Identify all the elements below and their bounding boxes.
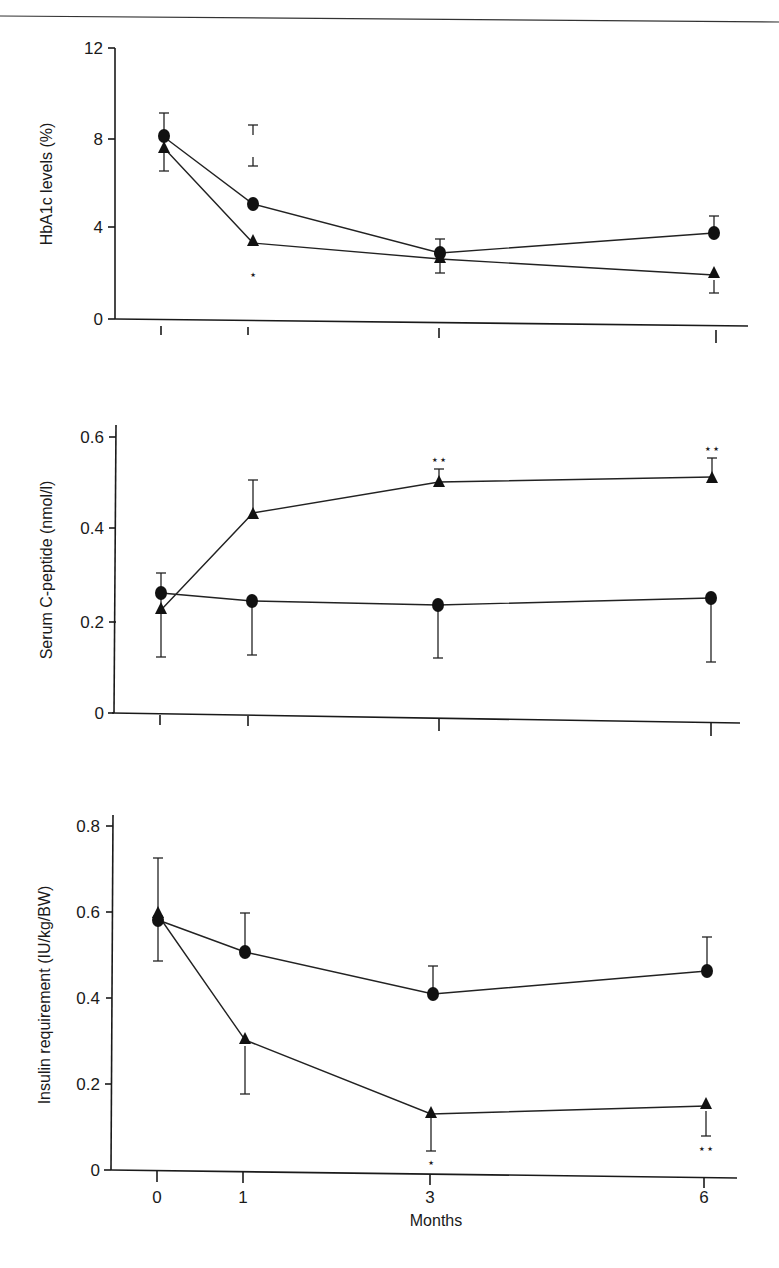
x-axis-title: Months <box>410 1212 462 1229</box>
series-triangle-markers <box>158 141 720 278</box>
top-rule <box>0 16 779 22</box>
x-tick-label: 6 <box>699 1188 708 1207</box>
panel-hba1c: 12 8 4 0 HbA1c levels (%) ⋆ <box>38 39 748 343</box>
x-tick-label: 3 <box>425 1188 434 1207</box>
y-axis <box>114 425 116 713</box>
y-tick-label: 0.4 <box>80 519 104 538</box>
significance-marker: ⋆⋆ <box>704 441 720 456</box>
series-circle-markers <box>155 586 717 612</box>
y-tick-label: 0 <box>95 704 104 723</box>
significance-marker: ⋆ <box>249 267 257 282</box>
y-axis-title: HbA1c levels (%) <box>38 123 55 246</box>
error-bars <box>153 858 712 1151</box>
panel-c-peptide: 0.6 0.4 0.2 0 Serum C-peptide (nmol/l) ⋆… <box>38 425 740 736</box>
series-circle-markers <box>152 913 713 1001</box>
series-triangle-markers <box>152 906 712 1118</box>
significance-marker: ⋆⋆ <box>431 452 447 467</box>
x-tick-label: 1 <box>238 1188 247 1207</box>
y-tick-label: 0.6 <box>80 428 104 447</box>
y-tick-label: 12 <box>84 39 103 58</box>
significance-marker: ⋆⋆ <box>698 1141 714 1156</box>
y-tick-label: 0 <box>94 310 103 329</box>
x-axis <box>115 319 748 326</box>
y-axis-title: Serum C-peptide (nmol/l) <box>38 481 55 660</box>
y-tick-label: 0.2 <box>80 613 104 632</box>
series-triangle-markers <box>155 471 718 614</box>
y-tick-label: 0.8 <box>76 817 100 836</box>
y-tick-label: 0.6 <box>76 903 100 922</box>
error-bars <box>159 113 719 293</box>
series-triangle-line <box>161 477 712 610</box>
series-triangle-line <box>158 915 706 1114</box>
panel-insulin: 0.8 0.6 0.4 0.2 0 0 1 3 6 Months Insulin… <box>36 815 737 1229</box>
y-tick-label: 0.2 <box>76 1075 100 1094</box>
x-tick-label: 0 <box>152 1188 161 1207</box>
figure: 12 8 4 0 HbA1c levels (%) ⋆ <box>0 0 779 1268</box>
y-tick-label: 4 <box>94 218 103 237</box>
series-circle-markers <box>158 129 720 260</box>
x-axis <box>112 713 740 723</box>
x-axis <box>111 1170 737 1178</box>
y-tick-label: 8 <box>94 130 103 149</box>
y-axis-title: Insulin requirement (IU/kg/BW) <box>36 886 53 1105</box>
significance-marker: ⋆ <box>427 1155 435 1170</box>
y-tick-label: 0 <box>91 1161 100 1180</box>
error-bars <box>156 458 717 662</box>
y-axis <box>111 815 113 1170</box>
y-tick-label: 0.4 <box>76 989 100 1008</box>
